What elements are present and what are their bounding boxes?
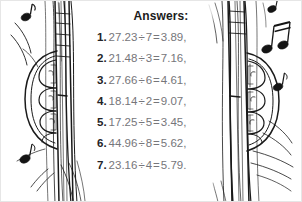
item-number: 3. [97,74,107,86]
division-symbol: ÷ [137,31,145,43]
list-item: 2.21.48÷3=7.16, [97,48,247,69]
item-punctuation: , [183,137,186,149]
list-item: 5.17.25÷5=3.45, [97,112,247,133]
item-result: 7.16 [161,52,183,64]
item-number: 7. [97,159,107,171]
item-dividend: 17.25 [109,116,138,128]
equals-symbol: = [152,137,161,149]
item-number: 4. [97,95,107,107]
item-dividend: 44.96 [109,137,138,149]
item-dividend: 21.48 [109,52,138,64]
item-dividend: 27.66 [109,74,138,86]
answers-list: 1.27.23÷7=3.89, 2.21.48÷3=7.16, 3.27.66÷… [97,27,247,176]
item-punctuation: . [183,159,186,171]
item-dividend: 27.23 [109,31,138,43]
item-dividend: 18.14 [109,95,138,107]
item-number: 2. [97,52,107,64]
item-punctuation: , [183,52,186,64]
division-symbol: ÷ [137,159,145,171]
equals-symbol: = [152,74,161,86]
list-item: 6.44.96÷8=5.62, [97,133,247,154]
item-result: 5.62 [161,137,183,149]
list-item: 7.23.16÷4=5.79. [97,155,247,176]
list-item: 4.18.14÷2=9.07, [97,91,247,112]
division-symbol: ÷ [137,52,145,64]
item-result: 9.07 [161,95,183,107]
division-symbol: ÷ [137,95,145,107]
worksheet-answer-key-page: Answers: 1.27.23÷7=3.89, 2.21.48÷3=7.16,… [0,0,302,202]
item-number: 5. [97,116,107,128]
answers-overlay: Answers: 1.27.23÷7=3.89, 2.21.48÷3=7.16,… [1,1,302,202]
equals-symbol: = [152,159,161,171]
division-symbol: ÷ [137,116,145,128]
item-result: 3.89 [161,31,183,43]
item-punctuation: , [183,116,186,128]
item-result: 5.79 [161,159,183,171]
item-result: 4.61 [161,74,183,86]
equals-symbol: = [152,95,161,107]
equals-symbol: = [152,52,161,64]
page-title: Answers: [1,9,302,23]
item-punctuation: , [183,95,186,107]
division-symbol: ÷ [137,137,145,149]
item-result: 3.45 [161,116,183,128]
equals-symbol: = [152,31,161,43]
equals-symbol: = [152,116,161,128]
list-item: 3.27.66÷6=4.61, [97,70,247,91]
list-item: 1.27.23÷7=3.89, [97,27,247,48]
item-number: 6. [97,137,107,149]
item-number: 1. [97,31,107,43]
item-punctuation: , [183,74,186,86]
item-punctuation: , [183,31,186,43]
division-symbol: ÷ [137,74,145,86]
item-dividend: 23.16 [109,159,138,171]
